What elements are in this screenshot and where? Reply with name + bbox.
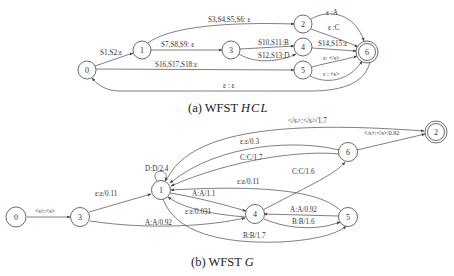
svg-text:S14,S15:ε: S14,S15:ε bbox=[318, 40, 347, 48]
svg-text:ε:ε/0.11: ε:ε/0.11 bbox=[237, 178, 260, 186]
caption-a-prefix: (a) WFST bbox=[188, 101, 241, 115]
edge-a-0-5: S16,S17,S18:ε bbox=[96, 61, 294, 70]
edge-b-0-3: <s>:<s> bbox=[27, 208, 70, 217]
node-a-1: 1 bbox=[133, 41, 151, 59]
svg-text:2: 2 bbox=[434, 128, 438, 137]
svg-text:5: 5 bbox=[346, 213, 350, 222]
svg-text:B:B/1.6: B:B/1.6 bbox=[292, 218, 315, 226]
svg-text:B:B/1.7: B:B/1.7 bbox=[243, 232, 266, 240]
diagram-g: <s>:<s> ε:ε/0.11 A:A/0.92 D:D/2.4 </s>:<… bbox=[6, 117, 447, 242]
svg-text:S3,S4,S5,S6: ε: S3,S4,S5,S6: ε bbox=[208, 16, 251, 24]
edge-b-3-4: A:A/0.92 bbox=[90, 218, 245, 227]
svg-text:1: 1 bbox=[140, 46, 144, 55]
svg-text:ε:ε/0.3: ε:ε/0.3 bbox=[240, 138, 259, 146]
svg-text:A:A/0.92: A:A/0.92 bbox=[290, 206, 317, 214]
node-b-1: 1 bbox=[152, 181, 171, 200]
svg-text:6: 6 bbox=[365, 48, 369, 57]
svg-text:S7,S8,S9: ε: S7,S8,S9: ε bbox=[161, 41, 194, 49]
node-b-6: 6 bbox=[339, 143, 358, 162]
svg-text:S16,S17,S18:ε: S16,S17,S18:ε bbox=[155, 61, 197, 69]
edge-a-1-3: S7,S8,S9: ε bbox=[151, 41, 222, 50]
diagram-hcl: S1,S2:ε S3,S4,S5,S6: ε S7,S8,S9: ε S10,S… bbox=[78, 9, 378, 91]
svg-text:3: 3 bbox=[78, 213, 82, 222]
svg-text:4: 4 bbox=[301, 43, 305, 52]
svg-text:5: 5 bbox=[301, 66, 305, 75]
svg-text:1: 1 bbox=[159, 186, 163, 195]
node-b-0: 0 bbox=[6, 207, 26, 227]
svg-text:6: 6 bbox=[346, 148, 350, 157]
wfst-diagrams: S1,S2:ε S3,S4,S5,S6: ε S7,S8,S9: ε S10,S… bbox=[0, 0, 454, 276]
svg-text:3: 3 bbox=[229, 46, 233, 55]
node-a-3: 3 bbox=[222, 41, 240, 59]
svg-text:S1,S2:ε: S1,S2:ε bbox=[100, 49, 122, 57]
svg-text:0: 0 bbox=[14, 213, 18, 222]
edge-a-3-4-d: S12,S13:D bbox=[239, 52, 296, 61]
edge-b-5-4: A:A/0.92 bbox=[264, 206, 339, 216]
node-b-5: 5 bbox=[339, 208, 358, 227]
node-b-2-final: 2 bbox=[425, 121, 447, 143]
svg-text:ε :A: ε :A bbox=[326, 9, 339, 17]
svg-text:S10,S11:B: S10,S11:B bbox=[258, 39, 289, 47]
edge-a-5-6-bos: ε : <s> bbox=[310, 61, 362, 80]
edge-b-6-2: </s>:</s>/0.92 bbox=[357, 130, 425, 150]
edge-b-4-1: ε:ε/0.031 bbox=[168, 197, 246, 217]
svg-text:ε:ε/0.031: ε:ε/0.031 bbox=[185, 208, 212, 216]
edge-b-3-1: ε:ε/0.11 bbox=[89, 190, 151, 212]
node-a-2: 2 bbox=[294, 15, 312, 33]
node-b-3: 3 bbox=[71, 208, 90, 227]
svg-text:S12,S13:D: S12,S13:D bbox=[258, 52, 289, 60]
edge-b-4-6: C:C/1.6 bbox=[263, 162, 345, 210]
node-a-6-final: 6 bbox=[356, 41, 378, 63]
svg-text:A:A/0.92: A:A/0.92 bbox=[145, 219, 172, 227]
edge-b-1-1-loop: D:D/2.4 bbox=[145, 165, 169, 181]
edge-a-3-4-b: S10,S11:B bbox=[240, 39, 294, 49]
caption-b-name: G bbox=[245, 255, 255, 269]
edge-a-5-6-eos: ε: </s> bbox=[312, 55, 357, 67]
svg-text:C:C/1.7: C:C/1.7 bbox=[240, 154, 263, 162]
node-a-0: 0 bbox=[78, 61, 96, 79]
node-b-4: 4 bbox=[246, 205, 265, 224]
caption-a: (a) WFST HCL bbox=[188, 101, 268, 116]
caption-b: (b) WFST G bbox=[191, 255, 255, 270]
edge-b-4-5: B:B/1.6 bbox=[264, 218, 340, 228]
edge-a-0-1: S1,S2:ε bbox=[95, 49, 133, 66]
svg-text:ε :C: ε :C bbox=[328, 24, 340, 32]
caption-b-prefix: (b) WFST bbox=[191, 255, 245, 269]
svg-text:2: 2 bbox=[301, 20, 305, 29]
edge-a-4-6: S14,S15:ε bbox=[312, 40, 356, 51]
svg-text:ε: </s>: ε: </s> bbox=[323, 55, 340, 61]
node-a-4: 4 bbox=[294, 38, 312, 56]
svg-text:ε : <s>: ε : <s> bbox=[323, 71, 340, 77]
caption-a-name: HCL bbox=[241, 101, 268, 115]
svg-text:4: 4 bbox=[253, 210, 257, 219]
svg-text:A:A/1.1: A:A/1.1 bbox=[192, 190, 216, 198]
svg-text:</s>:</s>/0.92: </s>:</s>/0.92 bbox=[364, 130, 399, 136]
svg-text:<s>:<s>: <s>:<s> bbox=[35, 208, 55, 214]
svg-text:ε:ε/0.11: ε:ε/0.11 bbox=[95, 190, 118, 198]
svg-text:</s>:</s>/1.7: </s>:</s>/1.7 bbox=[288, 117, 327, 125]
svg-text:D:D/2.4: D:D/2.4 bbox=[145, 165, 169, 173]
node-a-5: 5 bbox=[294, 61, 312, 79]
svg-text:C:C/1.6: C:C/1.6 bbox=[292, 168, 315, 176]
svg-text:ε : ε: ε : ε bbox=[223, 82, 235, 90]
svg-text:0: 0 bbox=[85, 66, 89, 75]
